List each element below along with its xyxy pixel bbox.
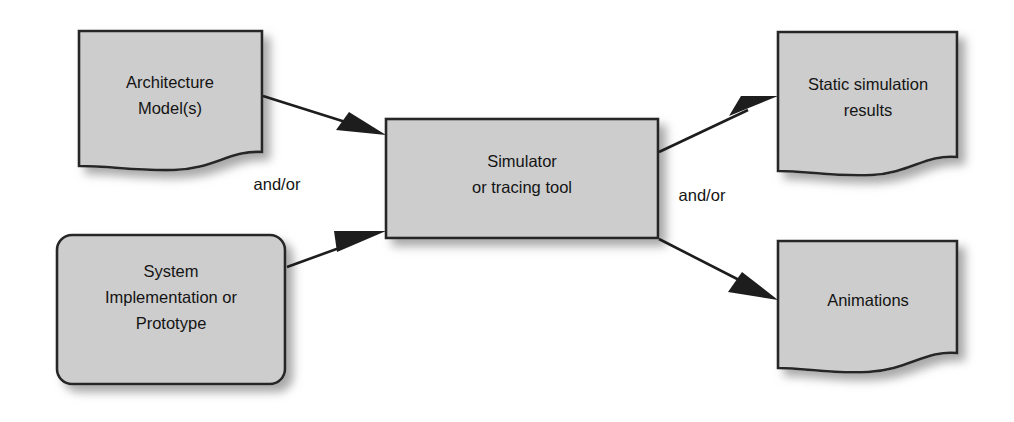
edge-simulator-to-animations-line [659, 239, 745, 283]
edge-implementation-to-simulator [287, 231, 386, 267]
edge-simulator-to-static-results-arrowhead [729, 96, 778, 116]
node-architecture-model[interactable]: Architecture Model(s) [79, 31, 262, 170]
edge-architecture-to-simulator-arrowhead [336, 112, 386, 135]
edge-architecture-to-simulator [263, 96, 386, 135]
system-implementation-label-line2: Implementation or [105, 288, 238, 306]
edge-simulator-to-static-results-line [659, 110, 748, 152]
architecture-model-label-line2: Model(s) [138, 99, 202, 117]
simulator-label-line1: Simulator [487, 152, 557, 170]
animations-label: Animations [827, 291, 909, 309]
diagram-svg: Architecture Model(s) System Implementat… [0, 0, 1014, 422]
edge-implementation-to-simulator-arrowhead [334, 231, 386, 252]
static-simulation-results-label-line1: Static simulation [808, 75, 928, 93]
system-implementation-label-line1: System [143, 262, 198, 280]
edge-label-output-andor: and/or [679, 186, 726, 204]
diagram-canvas: Architecture Model(s) System Implementat… [0, 0, 1014, 422]
node-simulator[interactable]: Simulator or tracing tool [386, 119, 658, 238]
edge-simulator-to-static-results [659, 96, 778, 152]
node-static-simulation-results[interactable]: Static simulation results [778, 32, 957, 175]
node-system-implementation[interactable]: System Implementation or Prototype [57, 235, 285, 384]
edge-simulator-to-animations [659, 239, 778, 300]
simulator-label-line2: or tracing tool [472, 178, 572, 196]
system-implementation-shape [57, 235, 285, 384]
node-animations[interactable]: Animations [778, 241, 957, 372]
system-implementation-label-line3: Prototype [136, 314, 207, 332]
architecture-model-label-line1: Architecture [126, 73, 214, 91]
edge-simulator-to-animations-arrowhead [728, 272, 778, 300]
edge-architecture-to-simulator-line [263, 96, 355, 125]
static-simulation-results-label-line2: results [844, 101, 893, 119]
edge-label-input-andor: and/or [254, 175, 301, 193]
